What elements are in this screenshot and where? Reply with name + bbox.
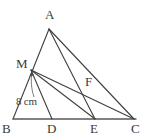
point-label-E: E	[90, 122, 98, 135]
point-label-B: B	[2, 122, 11, 135]
point-label-F: F	[85, 75, 92, 88]
measurement-label-8cm: 8 cm	[16, 96, 37, 107]
point-label-M: M	[16, 57, 28, 70]
point-label-A: A	[45, 8, 54, 21]
geometry-figure: A M F B D E C 8 cm	[0, 0, 150, 137]
point-label-C: C	[131, 122, 140, 135]
segment-MC	[31, 70, 134, 119]
point-label-D: D	[47, 122, 56, 135]
